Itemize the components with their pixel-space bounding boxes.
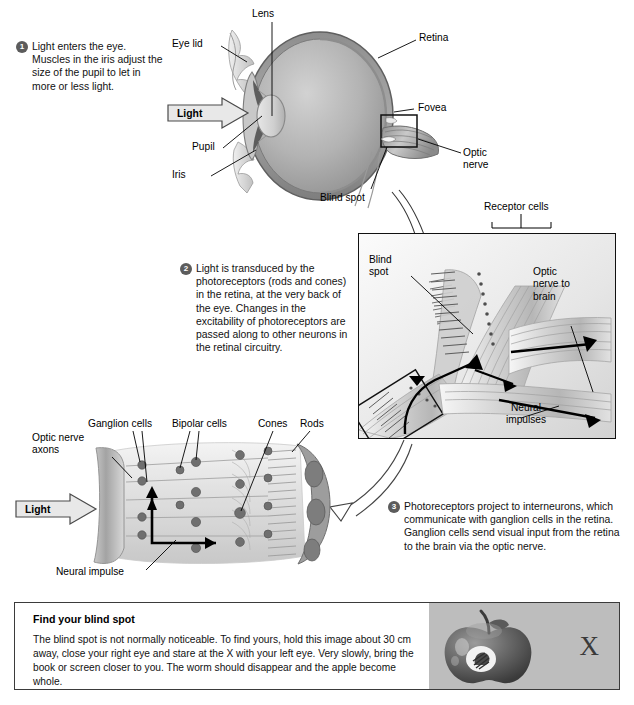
- light-arrow-cells: Light: [14, 492, 98, 526]
- label-optic-nerve-axons-line2: axons: [32, 444, 59, 455]
- label-cones: Cones: [258, 418, 287, 430]
- fixation-x-mark: X: [580, 633, 600, 660]
- label-pupil: Pupil: [192, 141, 215, 153]
- blind-spot-test-panel: X: [429, 603, 620, 689]
- panel-label-blind-spot-line2: spot: [369, 266, 388, 277]
- label-optic-nerve-axons-line1: Optic nerve: [32, 432, 84, 443]
- step-3: 3 Photoreceptors project to interneurons…: [388, 500, 628, 553]
- label-optic-nerve-axons: Optic nerve axons: [32, 432, 110, 457]
- label-optic-nerve: Optic nerve: [463, 147, 523, 172]
- label-neural-impulse: Neural impulse: [56, 566, 124, 578]
- panel-label-blind-spot: Blind spot: [369, 254, 419, 279]
- light-arrow-cells-label: Light: [14, 492, 98, 526]
- step-3-text: Photoreceptors project to interneurons, …: [404, 500, 628, 553]
- label-iris: Iris: [172, 169, 186, 181]
- panel-label-optic-nerve-to-brain: Optic nerve to brain: [533, 266, 603, 303]
- panel-label-optic-line1: Optic: [533, 266, 557, 277]
- label-receptor-cells: Receptor cells: [484, 201, 549, 213]
- blind-spot-title: Find your blind spot: [33, 613, 135, 625]
- panel-label-neural-line2: impulses: [506, 414, 546, 425]
- label-blind-spot-eye: Blind spot: [320, 192, 365, 204]
- panel-label-optic-line3: brain: [533, 291, 556, 302]
- label-rods: Rods: [300, 418, 324, 430]
- step-1-badge: 1: [16, 41, 28, 53]
- step-2-text: Light is transduced by the photoreceptor…: [196, 262, 348, 354]
- label-ganglion-cells: Ganglion cells: [88, 418, 152, 430]
- blind-spot-body: The blind spot is not normally noticeabl…: [33, 633, 425, 689]
- find-your-blind-spot-box: X Find your blind spot The blind spot is…: [14, 602, 620, 690]
- panel-label-neural-line1: Neural: [511, 402, 541, 413]
- step-2-badge: 2: [180, 263, 192, 275]
- panel-label-optic-line2: nerve to: [533, 278, 570, 289]
- light-arrow-eye-label: Light: [166, 96, 250, 130]
- step-1-text: Light enters the eye. Muscles in the iri…: [32, 40, 166, 93]
- panel-label-blind-spot-line1: Blind: [369, 254, 392, 265]
- panel-label-neural-impulses: Neural impulses: [495, 402, 557, 427]
- retina-inset-panel: Blind spot Optic nerve to brain Neural i…: [358, 233, 616, 439]
- step-2: 2 Light is transduced by the photorecept…: [180, 262, 348, 354]
- label-fovea: Fovea: [418, 102, 446, 114]
- light-arrow-eye: Light: [166, 96, 250, 130]
- label-lens: Lens: [252, 8, 274, 20]
- label-optic-nerve-line2: nerve: [463, 159, 488, 170]
- step-1: 1 Light enters the eye. Muscles in the i…: [16, 40, 166, 93]
- step-3-badge: 3: [388, 501, 400, 513]
- label-optic-nerve-line1: Optic: [463, 147, 487, 158]
- label-bipolar-cells: Bipolar cells: [172, 418, 227, 430]
- label-eye-lid: Eye lid: [172, 38, 203, 50]
- label-retina: Retina: [419, 32, 448, 44]
